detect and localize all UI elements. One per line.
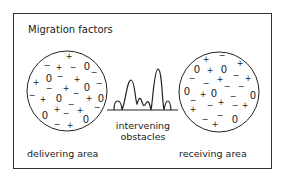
minus-factor-symbol: − xyxy=(70,63,77,72)
plus-factor-symbol: + xyxy=(242,101,249,110)
minus-factor-symbol: − xyxy=(203,79,210,88)
minus-factor-symbol: − xyxy=(233,71,240,80)
minus-factor-symbol: − xyxy=(230,92,237,101)
minus-factor-symbol: − xyxy=(46,84,53,93)
minus-factor-symbol: − xyxy=(57,72,64,81)
zero-factor-symbol: 0 xyxy=(211,88,217,99)
plus-factor-symbol: + xyxy=(218,98,225,107)
minus-factor-symbol: − xyxy=(238,82,245,91)
minus-factor-symbol: − xyxy=(217,111,224,120)
plus-factor-symbol: + xyxy=(67,121,74,130)
zero-factor-symbol: 0 xyxy=(232,114,238,125)
plus-factor-symbol: + xyxy=(86,94,93,103)
delivering-area-circle: +−+−0−0−++−+0−−+0−+0−−0+−+0−+ xyxy=(27,51,107,131)
minus-factor-symbol: − xyxy=(44,61,51,70)
minus-factor-symbol: − xyxy=(190,96,197,105)
minus-factor-symbol: − xyxy=(54,120,61,129)
receiving-area-label: receiving area xyxy=(179,148,247,159)
plus-factor-symbol: + xyxy=(33,78,40,87)
minus-factor-symbol: − xyxy=(189,74,196,83)
plus-factor-symbol: + xyxy=(203,55,210,64)
zero-factor-symbol: 0 xyxy=(46,73,52,84)
area-boundary xyxy=(179,52,259,132)
minus-factor-symbol: − xyxy=(63,109,70,118)
obstacles-label-line1: intervening xyxy=(112,120,174,131)
plus-factor-symbol: + xyxy=(207,66,214,75)
plus-factor-symbol: + xyxy=(74,75,81,84)
plus-factor-symbol: + xyxy=(245,74,252,83)
minus-factor-symbol: − xyxy=(68,100,75,109)
minus-factor-symbol: − xyxy=(96,79,103,88)
zero-factor-symbol: 0 xyxy=(42,110,48,121)
plus-factor-symbol: + xyxy=(212,120,219,129)
plus-factor-symbol: + xyxy=(200,90,207,99)
zero-factor-symbol: 0 xyxy=(221,64,227,75)
zero-factor-symbol: 0 xyxy=(56,93,62,104)
minus-factor-symbol: − xyxy=(219,51,226,60)
delivering-area-label: delivering area xyxy=(27,148,98,159)
intervening-obstacles-label: intervening obstacles xyxy=(112,120,174,142)
plus-factor-symbol: + xyxy=(237,59,244,68)
receiving-area-circle: +−+0+0−+−+−−−0+0−0−+−+−+−−+0 xyxy=(179,51,259,132)
obstacles-label-line2: obstacles xyxy=(112,131,174,142)
plus-factor-symbol: + xyxy=(190,105,197,114)
zero-factor-symbol: 0 xyxy=(83,114,89,125)
plus-factor-symbol: + xyxy=(54,105,61,114)
minus-factor-symbol: − xyxy=(224,82,231,91)
zero-factor-symbol: 0 xyxy=(250,90,256,101)
zero-factor-symbol: 0 xyxy=(84,82,90,93)
zero-factor-symbol: 0 xyxy=(84,61,90,72)
minus-factor-symbol: − xyxy=(29,91,36,100)
minus-factor-symbol: − xyxy=(207,101,214,110)
plus-factor-symbol: + xyxy=(217,75,224,84)
plus-factor-symbol: + xyxy=(66,52,73,61)
obstacle-peaks xyxy=(114,69,171,110)
plus-factor-symbol: + xyxy=(56,63,63,72)
minus-factor-symbol: − xyxy=(91,68,98,77)
minus-factor-symbol: − xyxy=(202,115,209,124)
plus-factor-symbol: + xyxy=(63,84,70,93)
minus-factor-symbol: − xyxy=(73,89,80,98)
minus-factor-symbol: − xyxy=(94,103,101,112)
minus-factor-symbol: − xyxy=(232,101,239,110)
plus-factor-symbol: + xyxy=(40,95,47,104)
intervening-obstacles-profile xyxy=(107,69,178,110)
